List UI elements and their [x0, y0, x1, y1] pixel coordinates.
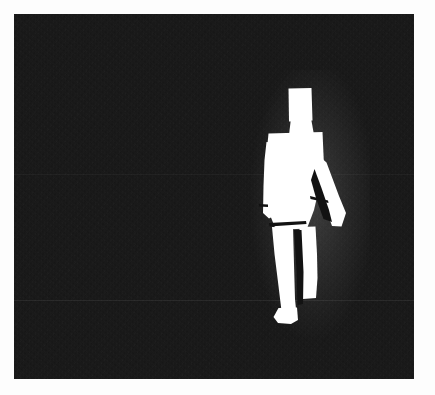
subject-layer	[14, 14, 414, 379]
left-leg-part	[272, 227, 297, 315]
image-canvas	[0, 0, 435, 395]
left-foot-part	[274, 308, 299, 325]
dark-frame	[14, 14, 414, 379]
left-hand-nick	[259, 204, 268, 207]
walking-person-silhouette	[14, 14, 414, 379]
head-part	[289, 88, 313, 122]
